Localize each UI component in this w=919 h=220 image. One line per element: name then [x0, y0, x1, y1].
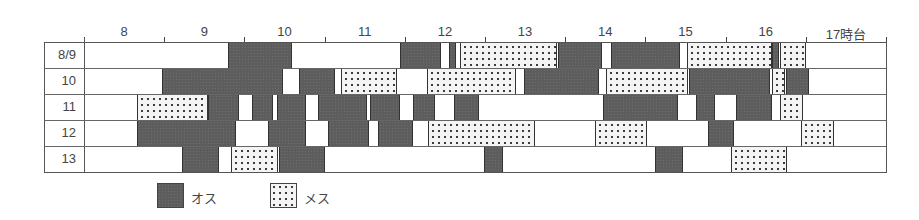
male-activity-bar	[279, 147, 326, 172]
hour-label: 11	[325, 24, 405, 39]
activity-gantt-chart: 891011121314151617時台 8/910111213 オスメス	[0, 0, 919, 220]
female-activity-bar	[427, 69, 516, 94]
hour-label: 17時台	[806, 24, 886, 43]
male-activity-bar	[162, 69, 283, 94]
legend-label-female: メス	[304, 188, 330, 207]
male-activity-bar	[328, 121, 369, 146]
hour-label: 16	[726, 24, 806, 39]
male-activity-bar	[268, 121, 306, 146]
male-activity-bar	[611, 43, 680, 68]
male-activity-bar	[400, 43, 441, 68]
legend-swatch-male	[157, 183, 184, 208]
male-activity-bar	[603, 95, 678, 120]
female-activity-bar	[772, 69, 785, 94]
row-label: 10	[46, 73, 76, 88]
row-label: 12	[46, 125, 76, 140]
legend-swatch-female	[270, 183, 297, 208]
male-activity-bar	[558, 43, 602, 68]
male-activity-bar	[378, 121, 412, 146]
male-activity-bar	[655, 147, 683, 172]
male-activity-bar	[689, 69, 770, 94]
female-activity-bar	[231, 147, 278, 172]
hour-label: 8	[84, 24, 164, 39]
hour-label: 12	[405, 24, 485, 39]
male-activity-bar	[182, 147, 219, 172]
male-activity-bar	[484, 147, 503, 172]
hour-label: 13	[485, 24, 565, 39]
male-activity-bar	[370, 95, 400, 120]
male-activity-bar	[524, 69, 599, 94]
legend-label-male: オス	[191, 188, 217, 207]
row-label: 8/9	[46, 47, 76, 62]
male-activity-bar	[772, 43, 779, 68]
male-activity-bar	[786, 69, 809, 94]
female-activity-bar	[780, 95, 803, 120]
male-activity-bar	[228, 43, 291, 68]
female-activity-bar	[428, 121, 535, 146]
hour-label: 14	[565, 24, 645, 39]
male-activity-bar	[137, 121, 236, 146]
hour-label: 9	[164, 24, 244, 39]
male-activity-bar	[299, 69, 335, 94]
female-activity-bar	[137, 95, 208, 120]
female-activity-bar	[780, 43, 806, 68]
female-activity-bar	[606, 69, 688, 94]
male-activity-bar	[277, 95, 306, 120]
row-label: 11	[46, 99, 76, 114]
hour-label: 10	[245, 24, 325, 39]
female-activity-bar	[731, 147, 787, 172]
row-label: 13	[46, 151, 76, 166]
male-activity-bar	[449, 43, 456, 68]
female-activity-bar	[460, 43, 557, 68]
label-column-divider	[84, 38, 85, 172]
male-activity-bar	[696, 95, 715, 120]
male-activity-bar	[708, 121, 734, 146]
female-activity-bar	[595, 121, 647, 146]
male-activity-bar	[208, 95, 238, 120]
male-activity-bar	[454, 95, 480, 120]
male-activity-bar	[736, 95, 772, 120]
hour-label: 15	[646, 24, 726, 39]
female-activity-bar	[341, 69, 397, 94]
male-activity-bar	[318, 95, 367, 120]
female-activity-bar	[687, 43, 772, 68]
female-activity-bar	[801, 121, 834, 146]
male-activity-bar	[413, 95, 435, 120]
male-activity-bar	[252, 95, 274, 120]
